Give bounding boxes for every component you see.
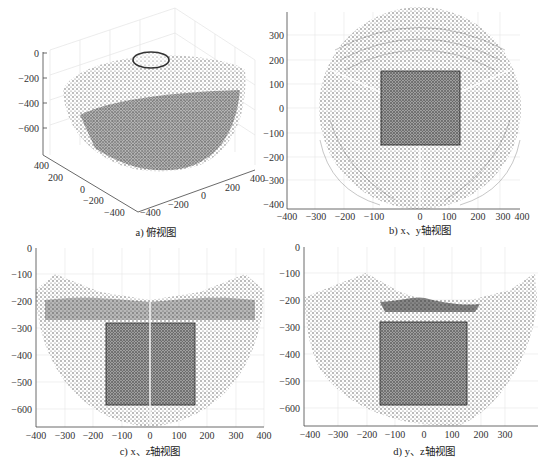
panel-b: 300200 1000 −100−200 −300−400 −400−300 −…	[263, 7, 529, 237]
panel-d-x-ticks: −400−300 −200−100 0100 200300	[300, 429, 513, 440]
svg-text:−300: −300	[328, 429, 349, 440]
svg-text:−300: −300	[263, 175, 284, 186]
svg-text:−200: −200	[279, 295, 300, 306]
svg-text:−500: −500	[279, 376, 300, 387]
svg-text:−200: −200	[357, 429, 378, 440]
svg-text:−400: −400	[18, 98, 39, 109]
svg-text:−400: −400	[26, 430, 47, 441]
svg-text:100: 100	[269, 79, 284, 90]
panel-d-caption: d) y、z轴视图	[393, 445, 454, 458]
svg-text:300: 300	[496, 211, 511, 222]
panel-b-y-ticks: 300200 1000 −100−200 −300−400	[263, 30, 284, 210]
svg-text:300: 300	[498, 429, 513, 440]
panel-a-ellipse-marker	[133, 52, 169, 68]
svg-text:300: 300	[229, 430, 244, 441]
svg-text:0: 0	[27, 243, 32, 254]
panel-d: 0−100 −200−300 −400−500 −600 −400−300 −2…	[279, 242, 538, 458]
svg-text:0: 0	[148, 430, 153, 441]
panel-c-y-ticks: 0−100 −200−300 −400−500 −600	[11, 243, 32, 415]
svg-text:−300: −300	[306, 211, 327, 222]
panel-b-x-ticks: −400−300 −200−100 0100 200300 400	[277, 211, 530, 222]
svg-text:0: 0	[80, 184, 85, 195]
svg-text:−600: −600	[18, 123, 39, 134]
svg-text:−400: −400	[279, 349, 300, 360]
svg-text:100: 100	[445, 429, 460, 440]
svg-text:−600: −600	[279, 403, 300, 414]
svg-text:200: 200	[269, 55, 284, 66]
panel-a-y-ticks: −400 −200 0 200 400	[140, 173, 265, 218]
panel-c: 0−100 −200−300 −400−500 −600 −400−300 −2…	[11, 243, 271, 458]
svg-text:−200: −200	[83, 430, 104, 441]
svg-text:−100: −100	[364, 211, 385, 222]
svg-text:300: 300	[269, 30, 284, 41]
panel-c-x-ticks: −400−300 −200−100 0100 200300 400	[26, 430, 272, 441]
panel-b-caption: b) x、y轴视图	[389, 224, 451, 237]
svg-text:−400: −400	[263, 199, 284, 210]
panel-c-caption: c) x、z轴视图	[120, 445, 181, 458]
svg-text:0: 0	[34, 48, 39, 59]
svg-text:−100: −100	[11, 269, 32, 280]
panel-a: 0 −200 −400 −600 400 200 0 −200 −400 −40…	[18, 8, 265, 239]
svg-text:−300: −300	[11, 323, 32, 334]
svg-text:200: 200	[200, 430, 215, 441]
svg-text:−200: −200	[168, 199, 189, 210]
svg-text:−200: −200	[11, 296, 32, 307]
svg-text:−400: −400	[300, 429, 321, 440]
svg-text:0: 0	[422, 429, 427, 440]
svg-text:400: 400	[515, 211, 530, 222]
svg-text:−500: −500	[11, 377, 32, 388]
svg-text:−200: −200	[335, 211, 356, 222]
svg-text:−200: −200	[83, 195, 104, 206]
svg-text:−300: −300	[279, 322, 300, 333]
svg-text:400: 400	[257, 430, 272, 441]
svg-text:−100: −100	[112, 430, 133, 441]
svg-text:−400: −400	[11, 350, 32, 361]
svg-text:400: 400	[34, 160, 49, 171]
figure: 0 −200 −400 −600 400 200 0 −200 −400 −40…	[0, 0, 547, 467]
svg-text:−300: −300	[55, 430, 76, 441]
svg-text:−400: −400	[277, 211, 298, 222]
svg-text:200: 200	[471, 211, 486, 222]
svg-text:−100: −100	[385, 429, 406, 440]
svg-text:0: 0	[295, 242, 300, 253]
panel-d-box	[380, 322, 467, 405]
svg-text:−600: −600	[11, 404, 32, 415]
svg-text:−400: −400	[140, 207, 161, 218]
panel-b-box	[381, 71, 460, 145]
svg-text:−100: −100	[263, 128, 284, 139]
svg-text:200: 200	[225, 182, 240, 193]
svg-text:0: 0	[279, 103, 284, 114]
panel-a-x-ticks: 400 200 0 −200 −400	[34, 160, 125, 218]
svg-text:−200: −200	[18, 73, 39, 84]
panel-d-y-ticks: 0−100 −200−300 −400−500 −600	[279, 242, 300, 414]
svg-text:200: 200	[474, 429, 489, 440]
svg-text:−100: −100	[279, 268, 300, 279]
svg-text:−200: −200	[263, 152, 284, 163]
panel-a-z-ticks: 0 −200 −400 −600	[18, 48, 39, 134]
panel-a-caption: a) 俯视图	[136, 226, 177, 239]
svg-text:100: 100	[442, 211, 457, 222]
svg-text:−400: −400	[104, 207, 125, 218]
svg-text:100: 100	[172, 430, 187, 441]
svg-text:200: 200	[48, 172, 63, 183]
svg-text:0: 0	[201, 190, 206, 201]
svg-text:0: 0	[418, 211, 423, 222]
